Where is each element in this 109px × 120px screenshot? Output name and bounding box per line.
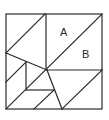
segment-line (34, 90, 54, 109)
segment-line (6, 14, 102, 109)
segment-line (6, 14, 45, 53)
label-a: A (60, 26, 68, 38)
label-b: B (82, 48, 89, 60)
dissection-diagram: A B (0, 0, 109, 120)
segments-group (6, 14, 102, 109)
segment-line (6, 62, 26, 82)
segment-line (62, 70, 102, 109)
